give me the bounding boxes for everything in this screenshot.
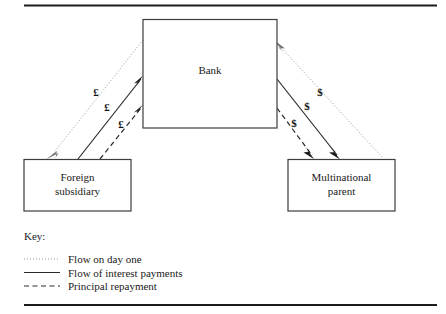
key-label-flow-of-interest-payments: Flow of interest payments [68,267,183,279]
arrowhead-principal-parent [304,147,315,159]
currency-label-right-day-one: $ [317,86,323,98]
currency-label-left-day-one: £ [93,86,99,98]
arrowhead-day-one-subsidiary [46,151,59,160]
key-label-principal-repayment: Principal repayment [68,280,157,292]
arrowhead-principal-bank [134,105,143,115]
key-label-flow-on-day-one: Flow on day one [68,253,142,265]
currency-label-left-interest: £ [104,101,110,113]
node-label-multinational-parent-line1: Multinational [312,171,372,183]
node-label-multinational-parent-line2: parent [328,185,355,197]
currency-label-left-principal: £ [118,118,124,130]
flow-interest-bank-to-parent [277,79,337,155]
key-heading: Key: [24,230,45,242]
flow-interest-subsidiary-to-bank [78,79,141,159]
node-label-foreign-subsidiary-line2: subsidiary [55,185,101,197]
figure-page: Bank Foreign subsidiary Multinational pa… [0,0,446,314]
back-to-back-loan-diagram: Bank Foreign subsidiary Multinational pa… [0,0,446,314]
arrowhead-interest-bank [134,76,143,86]
node-label-bank: Bank [198,64,222,76]
flow-principal-subsidiary-to-bank [100,108,141,159]
arrowhead-interest-parent [329,148,340,160]
currency-label-right-principal: $ [291,117,297,129]
node-label-foreign-subsidiary-line1: Foreign [60,171,95,183]
currency-label-right-interest: $ [304,100,310,112]
